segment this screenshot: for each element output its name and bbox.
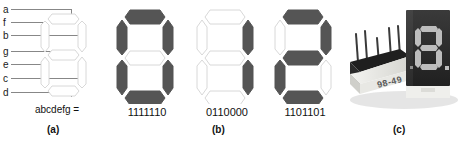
digit1-segment-e [197,60,207,95]
ref-segment-b [78,21,86,52]
led-display-photograph: 98-49 [348,4,466,112]
digit0-segment-g [125,51,165,65]
digit2-segment-d [283,91,323,104]
digit1-segment-a [205,10,245,24]
upright-highlight [406,10,413,86]
leader-lines-and-outline-display [0,0,122,110]
photo-segment-f [415,28,421,47]
digit0-segment-f [117,20,127,55]
panel-a-segment-reference: a f b g e c d [0,0,122,142]
ref-segment-c [78,57,86,88]
digit-two-svg [274,6,336,104]
digit-one-svg [196,6,258,104]
photo-segment-e [415,49,421,68]
seven-segment-figure: a f b g e c d [0,0,473,142]
digit-zero-svg [116,6,178,104]
ref-segment-g [48,50,79,60]
digit1-segment-d [205,91,245,104]
digit1-segment-c [243,60,253,95]
abcdefg-caption: abcdefg = [35,104,79,115]
digit2-segment-a [283,10,323,24]
led-package-upright [406,10,450,98]
photo-decimal-point [445,66,449,70]
photo-segment-b [436,28,442,47]
leader-line-f [11,22,43,30]
panel-c-photo: 98-49 [340,0,473,142]
digit0-segment-a [125,10,165,24]
photo-segment-c [436,49,442,68]
digit-one-code: 0110000 [186,106,268,118]
digit0-segment-c [163,60,173,95]
digit2-segment-e [275,60,285,95]
digit1-segment-b [243,20,253,55]
digit0-segment-d [125,91,165,104]
ref-segment-d [48,86,79,96]
digit-one-display: 0110000 [196,6,258,108]
photo-segment-a [420,26,438,32]
pin-2 [365,31,367,60]
panel-c-tag: (c) [393,124,405,135]
digit-two-code: 1101101 [264,106,346,118]
panel-b-digit-codes: 1111110 0110000 [112,0,340,142]
digit1-segment-f [197,20,207,55]
ref-segment-e [41,57,49,88]
pin-1 [356,34,358,62]
digit0-segment-b [163,20,173,55]
digit1-segment-g [205,51,245,65]
digit-zero-code: 1111110 [106,106,188,118]
reference-display-outline [41,14,86,96]
digit-two-display: 1101101 [274,6,336,108]
digit-zero-display: 1111110 [116,6,178,108]
leader-line-e [11,64,43,70]
panel-a-tag: (a) [47,124,59,135]
digit0-segment-e [117,60,127,95]
photo-segment-d [420,64,438,70]
led-package-tilted: 98-49 [350,26,410,94]
digit2-segment-f [275,20,285,55]
panel-b-tag: (b) [212,124,225,135]
led-photo-svg: 98-49 [348,4,466,112]
digit2-segment-g [283,51,323,65]
digit2-segment-b [321,20,331,55]
photo-segment-g [420,45,438,51]
ref-segment-a [48,14,79,24]
upright-base-notch [421,88,435,92]
digit2-segment-c [321,60,331,95]
ref-segment-f [41,21,49,52]
